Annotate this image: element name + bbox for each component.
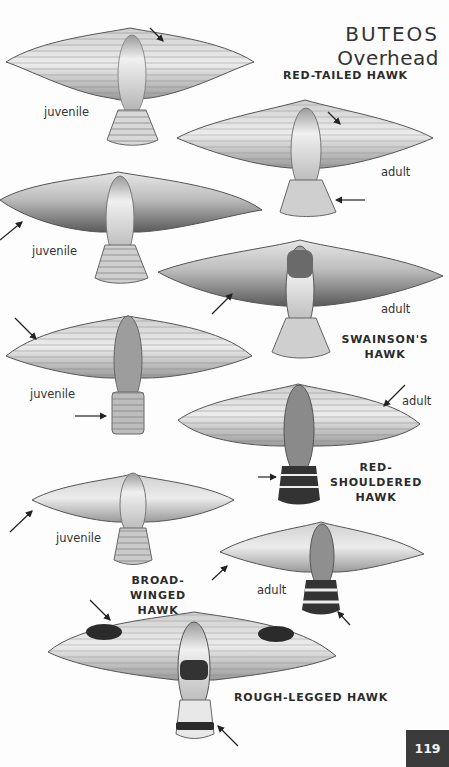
species-label-rough-legged-hawk: ROUGH-LEGGED HAWK xyxy=(234,690,388,705)
species-name-line-1: BROAD-WINGED xyxy=(108,573,208,603)
age-label-red-tailed-adult: adult xyxy=(381,165,410,179)
age-label-swainsons-adult: adult xyxy=(381,302,410,316)
species-name: RED-TAILED HAWK xyxy=(283,69,408,82)
species-name-line-1: RED-SHOULDERED xyxy=(320,460,432,490)
page-number: 119 xyxy=(414,741,440,756)
broad-winged-juvenile-illustration xyxy=(32,473,234,565)
age-label-broad-winged-adult: adult xyxy=(257,583,286,597)
broad-winged-adult-illustration xyxy=(220,522,424,615)
species-label-red-shouldered-hawk: RED-SHOULDERED HAWK xyxy=(320,460,432,505)
age-label-red-shouldered-juvenile: juvenile xyxy=(30,387,75,401)
page-title: BUTEOS Overhead xyxy=(337,22,439,70)
species-name-line-2: HAWK xyxy=(340,347,430,362)
species-label-broad-winged-hawk: BROAD-WINGED HAWK xyxy=(108,573,208,618)
species-name-line-1: SWAINSON'S xyxy=(340,332,430,347)
page-number-tab: 119 xyxy=(406,730,449,767)
age-label-red-shouldered-adult: adult xyxy=(402,394,431,408)
species-label-swainsons-hawk: SWAINSON'S HAWK xyxy=(340,332,430,362)
title-line-2: Overhead xyxy=(337,46,439,70)
rough-legged-illustration xyxy=(48,612,336,739)
species-name-line-2: HAWK xyxy=(108,603,208,618)
age-label-swainsons-juvenile: juvenile xyxy=(32,244,77,258)
age-label-red-tailed-juvenile: juvenile xyxy=(44,105,89,119)
title-line-1: BUTEOS xyxy=(337,22,439,46)
species-name: ROUGH-LEGGED HAWK xyxy=(234,691,388,704)
species-label-red-tailed-hawk: RED-TAILED HAWK xyxy=(283,68,408,83)
age-label-broad-winged-juvenile: juvenile xyxy=(56,531,101,545)
species-name-line-2: HAWK xyxy=(320,490,432,505)
